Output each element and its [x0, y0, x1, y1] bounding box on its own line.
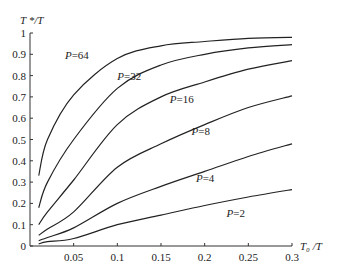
x-tick-label: 0.05: [64, 251, 84, 263]
y-tick-label: 0.2: [12, 197, 26, 209]
axes: 00.10.20.30.40.50.60.70.80.910.050.10.15…: [12, 27, 299, 263]
x-tick-label: 0.1: [110, 251, 124, 263]
curve-label: P=32: [116, 70, 141, 82]
curve-label: P=2: [226, 207, 245, 219]
line-chart: 00.10.20.30.40.50.60.70.80.910.050.10.15…: [0, 0, 338, 274]
curve-label: P=8: [191, 125, 211, 137]
y-tick-label: 0.3: [12, 176, 26, 188]
curve-p-32: [39, 45, 292, 208]
y-tick-label: 1: [21, 27, 27, 39]
y-tick-label: 0: [21, 240, 27, 252]
curve-p-4: [39, 144, 292, 241]
y-tick-label: 0.6: [12, 112, 26, 124]
curve-p-2: [39, 190, 292, 244]
y-tick-label: 0.7: [12, 91, 26, 103]
x-tick-label: 0.3: [285, 251, 299, 263]
y-tick-label: 0.9: [12, 48, 26, 60]
x-tick-label: 0.2: [198, 251, 212, 263]
y-tick-label: 0.8: [12, 70, 26, 82]
y-axis-title: T */T: [20, 14, 44, 26]
curves: [39, 37, 292, 244]
curve-label: P=64: [64, 49, 89, 61]
y-tick-label: 0.5: [12, 134, 26, 146]
curve-label: P=16: [169, 93, 194, 105]
y-tick-label: 0.4: [12, 155, 26, 167]
x-tick-label: 0.25: [239, 251, 259, 263]
x-tick-label: 0.15: [151, 251, 171, 263]
curve-p-16: [39, 61, 292, 225]
curve-label: P=4: [195, 172, 215, 184]
x-axis-title: T₀ /T: [300, 240, 323, 252]
y-tick-label: 0.1: [12, 219, 26, 231]
